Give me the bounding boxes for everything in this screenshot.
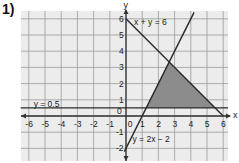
y-tick-label: 3 bbox=[119, 62, 124, 72]
grid-background bbox=[21, 11, 228, 161]
x-tick-label: -2 bbox=[90, 119, 98, 129]
x-tick-label: 0 bbox=[128, 119, 133, 129]
line-label: y = 0.5 bbox=[34, 99, 60, 109]
x-tick-label: 1 bbox=[140, 119, 145, 129]
x-tick-label: 2 bbox=[156, 119, 161, 129]
line-label: x + y = 6 bbox=[134, 17, 167, 27]
y-tick-label: 0 bbox=[117, 106, 122, 116]
y-tick-label: -2 bbox=[116, 143, 124, 153]
y-tick-label: 6 bbox=[119, 14, 124, 24]
x-tick-label: 4 bbox=[189, 119, 194, 129]
x-axis-label: x bbox=[233, 110, 238, 120]
line-label: y = 2x − 2 bbox=[132, 134, 170, 144]
coordinate-graph: xy -6-5-4-3-2-10123456-2-10123456 x + y … bbox=[0, 0, 239, 163]
y-axis-label: y bbox=[124, 0, 129, 10]
y-tick-label: 4 bbox=[119, 46, 124, 56]
x-tick-label: -3 bbox=[74, 119, 82, 129]
x-tick-label: 6 bbox=[221, 119, 226, 129]
y-tick-label: 1 bbox=[119, 95, 124, 105]
x-tick-label: -5 bbox=[42, 119, 50, 129]
y-tick-label: -1 bbox=[116, 127, 124, 137]
x-tick-label: 3 bbox=[172, 119, 177, 129]
x-tick-label: -1 bbox=[106, 119, 114, 129]
x-tick-label: -4 bbox=[58, 119, 66, 129]
x-axis-right-arrow-icon bbox=[226, 114, 231, 119]
x-tick-label: 5 bbox=[205, 119, 210, 129]
y-tick-label: 2 bbox=[119, 79, 124, 89]
y-tick-label: 5 bbox=[119, 30, 124, 40]
x-tick-label: -6 bbox=[25, 119, 33, 129]
